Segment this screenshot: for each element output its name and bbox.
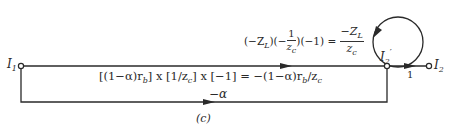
fraction-one-over-zc: 1zc [287,29,297,55]
branch-gain-output: 1 [407,70,413,80]
node-output-label: I2 [434,59,444,74]
node-output [426,63,431,68]
node-input-label: I1 [7,58,17,73]
self-loop-gain: (−ZL)(−1zc)(−1) = −ZLzc [244,26,364,57]
branch-gain-bottom: −α [209,88,227,100]
arrow-self-loop [373,26,382,38]
figure-caption: (c) [196,113,211,124]
fraction-result: −ZLzc [340,26,364,57]
signal-flow-graph [0,0,451,132]
node-input [18,63,23,68]
branch-gain-top: [(1−α)rb] x [1/zc] x [−1] = −(1−α)rb/zc [99,71,322,85]
node-internal-label: I2′ [380,49,392,66]
